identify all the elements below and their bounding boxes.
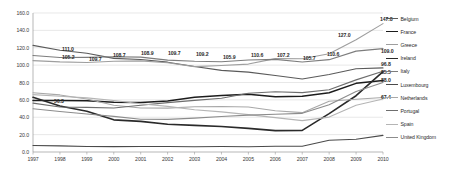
- legend-color-swatch: [386, 137, 398, 138]
- legend-item-label: Greece: [401, 42, 417, 48]
- chart-legend: BelgiumFranceGreeceIrelandItalyLuxembour…: [386, 12, 450, 144]
- y-axis-tick-label: 120.0: [0, 45, 29, 51]
- legend-color-swatch: [386, 84, 398, 85]
- x-axis-tick-label: 1999: [74, 156, 100, 162]
- legend-color-swatch: [386, 58, 398, 59]
- data-point-label: 110.6: [327, 51, 339, 57]
- series-line: [33, 24, 383, 67]
- x-axis-tick-label: 2008: [316, 156, 342, 162]
- legend-item-label: Belgium: [401, 16, 419, 22]
- legend-item-label: Portugal: [401, 108, 420, 114]
- legend-item[interactable]: United Kingdom: [386, 131, 450, 144]
- series-line: [33, 135, 383, 146]
- x-axis-tick-label: 2003: [182, 156, 208, 162]
- legend-color-swatch: [386, 110, 398, 111]
- legend-color-swatch: [386, 97, 398, 98]
- data-point-label: 127.0: [338, 32, 350, 38]
- x-axis-ticks: [33, 152, 383, 155]
- legend-item-label: Luxembourg: [401, 82, 429, 88]
- gridlines: [33, 13, 383, 152]
- x-axis-tick-label: 2002: [155, 156, 181, 162]
- legend-item[interactable]: Belgium: [386, 12, 450, 25]
- series-line: [33, 93, 383, 113]
- y-axis-tick-label: 140.0: [0, 27, 29, 33]
- legend-item[interactable]: Netherlands: [386, 91, 450, 104]
- legend-item[interactable]: France: [386, 25, 450, 38]
- legend-color-swatch: [386, 18, 398, 19]
- legend-item-label: Ireland: [401, 55, 416, 61]
- x-axis-tick-label: 2007: [289, 156, 315, 162]
- legend-item-label: Italy: [401, 68, 410, 74]
- x-axis-tick-label: 1998: [47, 156, 73, 162]
- y-axis-tick-label: 40.0: [0, 114, 29, 120]
- x-axis-tick-label: 1997: [20, 156, 46, 162]
- legend-item-label: France: [401, 29, 417, 35]
- data-point-label: 105.9: [223, 54, 235, 60]
- y-axis-tick-label: 80.0: [0, 80, 29, 86]
- y-axis-tick-label: 60.0: [0, 97, 29, 103]
- x-axis-tick-label: 2005: [235, 156, 261, 162]
- y-axis-tick-label: 0.0: [0, 149, 29, 155]
- legend-item-label: Spain: [401, 121, 414, 127]
- x-axis-tick-label: 2004: [208, 156, 234, 162]
- data-point-label: 109.2: [196, 51, 208, 57]
- y-axis-tick-label: 100.0: [0, 62, 29, 68]
- y-axis-tick-label: 20.0: [0, 132, 29, 138]
- series-lines: [33, 24, 383, 147]
- chart-plot-area: [0, 0, 450, 177]
- data-point-label: 108.7: [113, 52, 125, 58]
- x-axis-tick-label: 2009: [343, 156, 369, 162]
- x-axis-tick-label: 2010: [370, 156, 396, 162]
- legend-item[interactable]: Luxembourg: [386, 78, 450, 91]
- data-point-label: 107.2: [277, 52, 289, 58]
- data-point-label: 111.0: [62, 46, 74, 52]
- legend-item[interactable]: Italy: [386, 65, 450, 78]
- series-line: [33, 71, 383, 108]
- legend-item[interactable]: Portugal: [386, 104, 450, 117]
- legend-color-swatch: [386, 124, 398, 125]
- x-axis-tick-label: 2001: [128, 156, 154, 162]
- legend-item[interactable]: Ireland: [386, 52, 450, 65]
- legend-item-label: Netherlands: [401, 95, 428, 101]
- data-point-label: 108.9: [141, 50, 153, 56]
- line-chart: 0.020.040.060.080.0100.0120.0140.0160.0 …: [0, 0, 450, 177]
- data-point-label: 105.7: [303, 55, 315, 61]
- data-point-label: 109.7: [89, 56, 101, 62]
- data-point-label: 105.2: [62, 54, 74, 60]
- data-point-label: 56.3: [54, 98, 64, 104]
- legend-item-label: United Kingdom: [401, 134, 437, 140]
- x-axis-tick-label: 2000: [101, 156, 127, 162]
- y-axis-tick-label: 160.0: [0, 10, 29, 16]
- x-axis-tick-label: 2006: [262, 156, 288, 162]
- legend-item[interactable]: Greece: [386, 38, 450, 51]
- data-point-label: 110.6: [251, 52, 263, 58]
- legend-item[interactable]: Spain: [386, 118, 450, 131]
- legend-color-swatch: [386, 44, 398, 45]
- legend-color-swatch: [386, 31, 398, 32]
- legend-color-swatch: [386, 71, 398, 72]
- data-point-label: 109.7: [168, 50, 180, 56]
